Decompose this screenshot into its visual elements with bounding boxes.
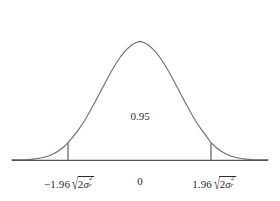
right-coefficient: 1.96	[192, 178, 212, 190]
normal-distribution-figure: 0.95 −1.96√2σ2r 0 1.96√2σ2r	[0, 0, 280, 201]
right-critical-value-label: 1.96√2σ2r	[192, 176, 236, 193]
right-radical: √2σ2r	[212, 176, 236, 193]
right-sigma-indices: 2r	[231, 177, 235, 188]
right-sigma-subscript: r	[231, 182, 234, 190]
left-radical: √2σ2r	[70, 176, 94, 193]
right-critical-value-math: 1.96√2σ2r	[192, 176, 236, 193]
left-radicand: 2σ2r	[78, 176, 94, 190]
distribution-plot	[0, 0, 280, 201]
left-critical-value-label: −1.96√2σ2r	[44, 176, 94, 193]
center-axis-label: 0	[137, 176, 143, 187]
right-radicand: 2σ2r	[220, 176, 236, 190]
left-coefficient: 1.96	[50, 178, 70, 190]
left-critical-value-math: −1.96√2σ2r	[44, 176, 94, 193]
left-sigma-subscript: r	[89, 182, 92, 190]
bell-curve-path	[12, 41, 268, 159]
area-probability-label: 0.95	[130, 111, 149, 122]
left-sigma-indices: 2r	[89, 177, 93, 188]
